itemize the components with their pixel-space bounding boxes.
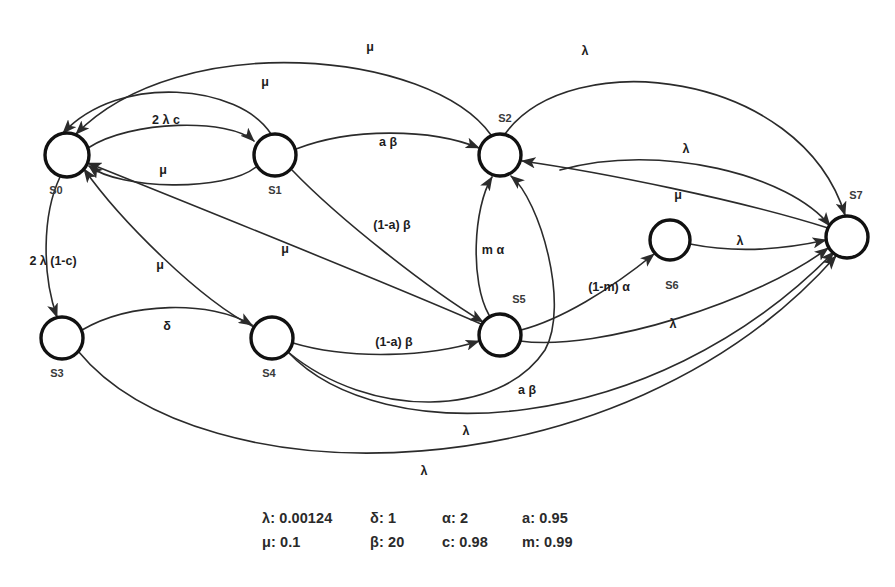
edge-label-e-s4-s5: (1-a) β xyxy=(375,335,413,349)
edge-label-e-s5-s2: m α xyxy=(482,243,505,257)
node-label-s3: S3 xyxy=(50,367,63,379)
legend-item-1-0: μ: 0.1 xyxy=(262,530,370,554)
edge-label-e-s1-s2: a β xyxy=(379,135,397,149)
edge-label-e-s6-s7: λ xyxy=(683,142,690,156)
edge-s4-to-s0 xyxy=(84,169,254,327)
node-s0[interactable]: S0 xyxy=(45,133,89,196)
legend-item-0-3: a: 0.95 xyxy=(522,506,573,530)
edge-label-e-s1-s0-b: μ xyxy=(261,75,269,89)
node-circle-s3[interactable] xyxy=(41,317,83,359)
edge-label-e-s2-s7: λ xyxy=(582,44,589,58)
node-label-s2: S2 xyxy=(498,112,511,124)
edge-label-e-s5-s6: (1-m) α xyxy=(588,280,630,294)
edge-label-e-s3-s4: δ xyxy=(163,319,171,333)
edge-s2-to-s0 xyxy=(76,63,491,135)
node-s4[interactable]: S4 xyxy=(251,317,293,379)
node-s1[interactable]: S1 xyxy=(254,134,296,196)
node-label-s5: S5 xyxy=(512,293,525,305)
edge-labels-layer: 2 λ cμ2 λ (1-c)δa β(1-a) β(1-a) βm αa β(… xyxy=(29,40,743,478)
edge-label-e-s1-s5: (1-a) β xyxy=(373,218,411,232)
state-transition-diagram: 2 λ cμ2 λ (1-c)δa β(1-a) β(1-a) βm αa β(… xyxy=(0,0,895,587)
node-circle-s5[interactable] xyxy=(479,314,521,356)
node-s3[interactable]: S3 xyxy=(41,317,83,379)
edge-s0-to-s3 xyxy=(46,177,60,317)
edge-label-e-s4-s0: μ xyxy=(156,258,164,272)
legend-item-0-2: α: 2 xyxy=(442,506,522,530)
node-label-s7: S7 xyxy=(849,189,862,201)
edge-s1-to-s0 xyxy=(89,166,256,185)
legend-item-1-3: m: 0.99 xyxy=(522,530,573,554)
edge-label-e-s0-s3: 2 λ (1-c) xyxy=(29,254,76,268)
node-circle-s2[interactable] xyxy=(479,134,521,176)
edge-s1-to-s5 xyxy=(292,170,483,322)
node-label-s6: S6 xyxy=(665,279,678,291)
edge-s4-to-s2 xyxy=(288,176,554,402)
edge-label-e-s6-s7b: λ xyxy=(737,234,744,248)
edge-label-e-s7-s2: μ xyxy=(674,188,682,202)
edge-s0-to-s1 xyxy=(88,125,254,148)
node-circle-s1[interactable] xyxy=(254,134,296,176)
edge-s3-to-s7 xyxy=(78,256,836,453)
node-s6[interactable]: S6 xyxy=(650,220,690,291)
edge-label-e-s1-s0: μ xyxy=(159,163,167,177)
edge-label-e-s0-s1: 2 λ c xyxy=(152,113,180,127)
node-circle-s6[interactable] xyxy=(650,220,690,260)
edge-label-e-s2-s0-a: μ xyxy=(366,40,374,54)
node-label-s1: S1 xyxy=(268,184,281,196)
node-label-s4: S4 xyxy=(262,367,276,379)
node-circle-s7[interactable] xyxy=(826,216,868,258)
node-circle-s4[interactable] xyxy=(251,317,293,359)
edge-label-e-s4-s2: a β xyxy=(518,383,536,397)
edge-label-e-s3-s7: λ xyxy=(421,464,428,478)
edge-label-e-s4-s7: λ xyxy=(463,424,470,438)
node-s5[interactable]: S5 xyxy=(479,293,526,356)
legend-item-0-0: λ: 0.00124 xyxy=(262,506,370,530)
node-s7[interactable]: S7 xyxy=(826,189,868,258)
legend-item-1-2: c: 0.98 xyxy=(442,530,522,554)
node-label-s0: S0 xyxy=(49,184,62,196)
edge-label-e-s5-s7: λ xyxy=(670,317,677,331)
parameter-legend: λ: 0.00124δ: 1α: 2a: 0.95μ: 0.1β: 20c: 0… xyxy=(262,506,573,554)
node-circle-s0[interactable] xyxy=(45,133,89,177)
edge-s6-to-s7 xyxy=(690,240,826,249)
edge-label-e-s5-s0: μ xyxy=(281,242,289,256)
diagram-canvas: 2 λ cμ2 λ (1-c)δa β(1-a) β(1-a) βm αa β(… xyxy=(0,0,895,587)
legend-item-0-1: δ: 1 xyxy=(370,506,442,530)
legend-item-1-1: β: 20 xyxy=(370,530,442,554)
